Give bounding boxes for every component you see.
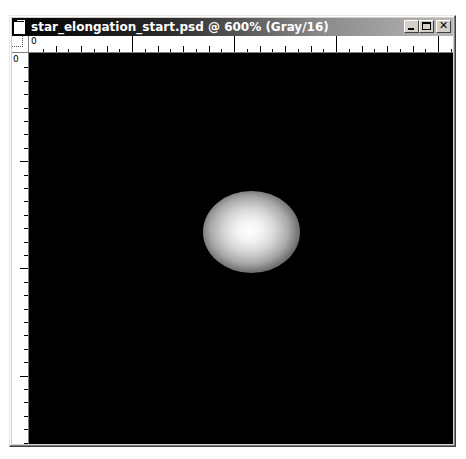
ruler-tick	[24, 188, 28, 189]
ruler-tick	[132, 36, 133, 52]
ruler-tick	[260, 46, 261, 52]
ruler-tick	[387, 46, 388, 52]
ruler-tick	[24, 255, 28, 256]
ruler-tick	[336, 36, 337, 52]
ruler-tick	[24, 215, 28, 216]
ruler-tick	[20, 268, 28, 269]
ruler-tick	[24, 443, 28, 444]
ruler-tick	[209, 46, 210, 52]
maximize-icon	[422, 22, 431, 30]
ruler-tick	[24, 81, 28, 82]
ruler-tick	[24, 362, 28, 363]
document-icon	[14, 20, 27, 34]
ruler-tick	[298, 49, 299, 52]
ruler-tick	[24, 94, 28, 95]
ruler-tick	[413, 46, 414, 52]
ruler-tick	[94, 49, 95, 52]
ruler-tick	[24, 309, 28, 310]
ruler-tick	[24, 108, 28, 109]
ruler-tick	[24, 67, 28, 68]
ruler-tick	[311, 46, 312, 52]
ruler-tick	[81, 46, 82, 52]
ruler-tick	[323, 49, 324, 52]
ruler-tick	[68, 49, 69, 52]
ruler-tick	[24, 201, 28, 202]
ruler-tick	[119, 49, 120, 52]
ruler-tick	[362, 46, 363, 52]
ruler-tick	[43, 49, 44, 52]
ruler-tick	[196, 49, 197, 52]
ruler-tick	[183, 46, 184, 52]
ruler-tick	[247, 49, 248, 52]
ruler-tick	[170, 49, 171, 52]
ruler-tick	[24, 121, 28, 122]
ruler-tick	[20, 161, 28, 162]
close-icon: ✕	[437, 19, 450, 33]
ruler-tick	[24, 335, 28, 336]
minimize-icon	[408, 28, 414, 30]
ruler-tick	[221, 49, 222, 52]
ruler-tick	[374, 49, 375, 52]
ruler-tick	[285, 46, 286, 52]
ruler-tick	[272, 49, 273, 52]
ruler-tick	[107, 46, 108, 52]
ruler-tick	[349, 49, 350, 52]
ruler-tick	[56, 46, 57, 52]
ruler-tick	[24, 416, 28, 417]
horizontal-ruler[interactable]: 0	[29, 36, 453, 53]
ruler-tick	[400, 49, 401, 52]
ruler-tick	[425, 49, 426, 52]
ruler-tick	[24, 282, 28, 283]
ruler-tick	[24, 389, 28, 390]
document-window: star_elongation_start.psd @ 600% (Gray/1…	[9, 15, 456, 447]
ruler-tick	[24, 228, 28, 229]
window-controls: ✕	[404, 20, 451, 33]
ruler-tick	[24, 148, 28, 149]
ruler-tick	[24, 349, 28, 350]
ruler-tick	[24, 322, 28, 323]
maximize-button[interactable]	[419, 20, 434, 33]
ruler-tick	[24, 295, 28, 296]
ruler-left-origin-label: 0	[13, 55, 19, 64]
ruler-top-origin-label: 0	[31, 37, 37, 46]
ruler-tick	[24, 242, 28, 243]
vertical-ruler[interactable]: 0	[12, 53, 29, 444]
title-bar[interactable]: star_elongation_start.psd @ 600% (Gray/1…	[12, 18, 453, 36]
window-title: star_elongation_start.psd @ 600% (Gray/1…	[31, 20, 329, 34]
ruler-tick	[24, 175, 28, 176]
close-button[interactable]: ✕	[436, 20, 451, 33]
ruler-tick	[234, 36, 235, 52]
ruler-tick	[24, 429, 28, 430]
star-blob	[203, 191, 300, 273]
ruler-tick	[24, 134, 28, 135]
ruler-tick	[20, 376, 28, 377]
minimize-button[interactable]	[404, 20, 419, 33]
ruler-tick	[438, 36, 439, 52]
ruler-tick	[24, 402, 28, 403]
ruler-tick	[451, 49, 452, 52]
ruler-tick	[158, 46, 159, 52]
ruler-origin-corner[interactable]	[12, 36, 29, 53]
image-canvas[interactable]	[29, 53, 453, 444]
ruler-tick	[145, 49, 146, 52]
